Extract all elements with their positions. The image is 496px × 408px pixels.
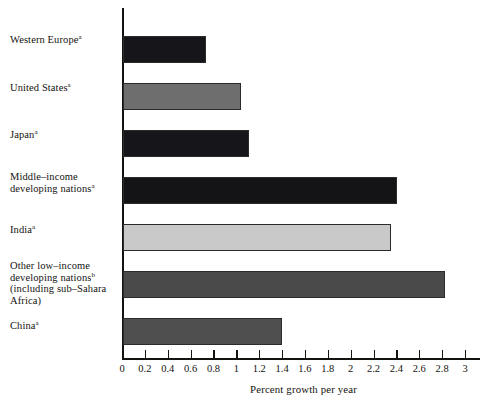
x-tick-6 bbox=[259, 350, 260, 358]
footnote-marker: a bbox=[79, 33, 82, 41]
category-label-line1: Middle–income bbox=[10, 171, 78, 182]
category-label-china: Chinaa bbox=[10, 320, 118, 332]
footnote-marker: a bbox=[34, 128, 37, 136]
x-tick-2 bbox=[168, 350, 169, 358]
category-label-japan: Japana bbox=[10, 129, 118, 141]
category-label-text: United States bbox=[10, 82, 68, 93]
x-tick-8 bbox=[305, 350, 306, 358]
x-tick-11 bbox=[374, 350, 375, 358]
footnote-marker: a bbox=[68, 81, 71, 89]
x-tick-label-6: 1.2 bbox=[253, 363, 266, 375]
plot-area: 00.20.40.60.811.21.41.61.822.22.42.62.83 bbox=[122, 8, 485, 358]
x-axis-title: Percent growth per year bbox=[122, 383, 485, 395]
x-tick-label-3: 0.6 bbox=[184, 363, 197, 375]
category-label-text: Japan bbox=[10, 129, 34, 140]
bar-chart: Western Europea United Statesa Japana Mi… bbox=[0, 0, 496, 408]
bar-middle-income-developing-nations bbox=[123, 177, 397, 204]
x-tick-7 bbox=[282, 350, 283, 358]
x-tick-label-11: 2.2 bbox=[367, 363, 380, 375]
category-label-middle-income: Middle–incomedeveloping nationsa bbox=[10, 171, 118, 194]
x-tick-label-0: 0 bbox=[119, 363, 124, 375]
x-tick-label-8: 1.6 bbox=[298, 363, 311, 375]
category-label-text: Western Europe bbox=[10, 34, 79, 45]
x-tick-label-9: 1.8 bbox=[321, 363, 334, 375]
x-tick-label-2: 0.4 bbox=[161, 363, 174, 375]
footnote-marker: a bbox=[91, 181, 94, 189]
x-tick-0 bbox=[122, 350, 123, 358]
x-tick-13 bbox=[419, 350, 420, 358]
x-tick-5 bbox=[236, 350, 237, 358]
x-tick-9 bbox=[328, 350, 329, 358]
category-label-text: China bbox=[10, 320, 36, 331]
x-tick-12 bbox=[396, 350, 397, 358]
x-tick-label-7: 1.4 bbox=[276, 363, 289, 375]
bar-western-europe bbox=[123, 36, 206, 63]
category-label-text: India bbox=[10, 224, 32, 235]
x-tick-15 bbox=[465, 350, 466, 358]
x-tick-10 bbox=[351, 350, 352, 358]
x-tick-label-10: 2 bbox=[348, 363, 353, 375]
bar-china bbox=[123, 318, 282, 345]
category-label-other-low-income: Other low–incomedeveloping nationsb(incl… bbox=[10, 260, 118, 306]
x-tick-label-12: 2.4 bbox=[390, 363, 403, 375]
x-tick-3 bbox=[191, 350, 192, 358]
x-tick-label-15: 3 bbox=[462, 363, 467, 375]
x-tick-label-1: 0.2 bbox=[138, 363, 151, 375]
x-tick-label-4: 0.8 bbox=[207, 363, 220, 375]
footnote-marker: a bbox=[32, 223, 35, 231]
category-label-united-states: United Statesa bbox=[10, 82, 118, 94]
bar-japan bbox=[123, 130, 249, 157]
x-tick-14 bbox=[442, 350, 443, 358]
x-tick-1 bbox=[145, 350, 146, 358]
category-label-line1: Other low–income bbox=[10, 260, 90, 271]
category-label-western-europe: Western Europea bbox=[10, 34, 118, 46]
x-tick-label-13: 2.6 bbox=[413, 363, 426, 375]
category-label-line2: developing nations bbox=[10, 183, 91, 194]
category-label-line3: (including sub–Sahara bbox=[10, 283, 106, 294]
x-tick-label-5: 1 bbox=[234, 363, 239, 375]
footnote-marker: a bbox=[36, 319, 39, 327]
bar-other-low-income-developing-nations-including-sub-sahara-africa bbox=[123, 271, 445, 298]
bar-india bbox=[123, 224, 391, 251]
footnote-marker: b bbox=[91, 270, 95, 278]
bar-united-states bbox=[123, 83, 241, 110]
category-label-line4: Africa) bbox=[10, 295, 41, 306]
x-tick-label-14: 2.8 bbox=[436, 363, 449, 375]
x-tick-4 bbox=[213, 350, 214, 358]
x-axis-line bbox=[122, 358, 480, 360]
category-label-line2: developing nations bbox=[10, 272, 91, 283]
category-label-india: Indiaa bbox=[10, 224, 118, 236]
